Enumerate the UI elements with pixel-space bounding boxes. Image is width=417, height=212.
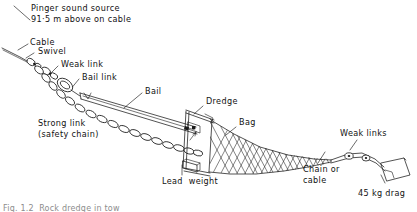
trailing-weak-link-2-pin	[365, 157, 367, 159]
cable-leader-icon	[18, 44, 28, 50]
label-swivel: Swivel	[38, 46, 66, 56]
dredge-leader-icon	[194, 106, 203, 114]
weak-links-leader-icon	[350, 140, 357, 150]
chain-link	[85, 109, 98, 120]
tow-cable-inner	[3, 50, 27, 62]
dredge-frame-left-post-b	[186, 112, 189, 169]
swivel-leader-icon	[26, 53, 34, 58]
safety-chain-links	[33, 64, 203, 156]
chain-link	[96, 114, 109, 124]
rock-dredge-figure: Pinger sound source 91·5 m above on cabl…	[0, 0, 417, 212]
drag-weight-shackle	[385, 170, 394, 178]
bail-bar-highlight	[83, 96, 195, 130]
label-weak-link: Weak link	[61, 59, 103, 69]
tow-cable	[2, 48, 27, 61]
tow-cable-group	[2, 48, 27, 62]
safety-chain-group	[33, 64, 203, 156]
weak-link-pin	[49, 73, 52, 75]
bag-mesh-diagonal-a	[196, 104, 364, 212]
label-strong-link-line1: Strong link	[38, 118, 85, 128]
trailing-weak-link-1-pin	[348, 155, 351, 157]
chain-link	[64, 95, 76, 106]
label-bag: Bag	[239, 117, 256, 127]
bail-leader-icon	[124, 93, 142, 108]
bail-bar-top-edge	[80, 93, 196, 127]
chain-link	[74, 102, 86, 113]
chain-link	[151, 136, 163, 145]
dredge-frame-group	[183, 110, 214, 176]
chain-link	[193, 149, 204, 157]
bag-outline	[210, 119, 331, 160]
dredge-frame-top-rail	[186, 110, 214, 120]
dredge-bracket-bolt	[192, 126, 195, 129]
label-lead-weight: Lead weight	[162, 176, 218, 186]
bail-bar-group	[80, 93, 197, 134]
label-strong-link-line2: (safety chain)	[38, 129, 99, 139]
label-drag-weight: 45 kg drag	[358, 188, 405, 198]
chain-link	[162, 140, 174, 149]
lead-weight-group	[183, 159, 200, 172]
diagram-canvas: Pinger sound source 91·5 m above on cabl…	[0, 0, 417, 212]
chain-link	[118, 124, 130, 134]
label-chain-or-cable-line2: cable	[303, 175, 327, 185]
chain-link	[107, 119, 119, 129]
dredge-frame-right-post	[209, 120, 212, 172]
label-weak-links: Weak links	[340, 128, 387, 138]
pinger-pointer-icon	[14, 6, 30, 20]
drag-weight-body	[381, 158, 410, 181]
bail-bar-left-cap	[80, 93, 81, 99]
dredge-frame-top-rail-b	[186, 113, 214, 123]
chain-link	[129, 128, 141, 138]
bag-mesh	[196, 104, 364, 212]
chain-link	[173, 144, 185, 153]
trailing-weak-links-group	[345, 153, 370, 161]
figure-caption: Fig. 1.2 Rock dredge in tow	[3, 204, 120, 212]
dredge-bag-group	[196, 104, 364, 212]
label-dredge: Dredge	[206, 96, 238, 106]
label-pinger-line1: Pinger sound source	[31, 3, 120, 13]
chain-link	[140, 132, 152, 141]
bail-link-shank	[71, 90, 80, 96]
drag-weight-group	[381, 158, 410, 181]
label-pinger-line2: 91·5 m above on cable	[31, 14, 131, 24]
label-bail-link: Bail link	[82, 72, 117, 82]
drag-leader-icon	[381, 175, 385, 183]
label-bail: Bail	[145, 86, 161, 96]
figure-caption-group: Fig. 1.2 Rock dredge in tow	[3, 204, 120, 212]
bag-leader-icon	[226, 127, 236, 135]
chain-link	[183, 147, 195, 155]
label-chain-or-cable-line1: Chain or	[303, 164, 340, 174]
